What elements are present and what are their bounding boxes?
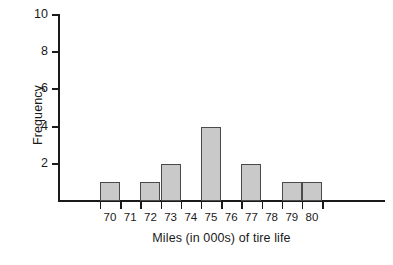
x-tick-mark [221,202,223,209]
x-tick-mark [140,202,142,209]
y-tick-mark [52,126,60,128]
y-tick-mark [52,14,60,16]
bar [100,182,120,201]
x-tick-mark [100,202,102,209]
x-axis-title: Miles (in 000s) of tire life [58,231,385,245]
x-tick-mark [161,202,163,209]
bar [282,182,302,201]
y-tick-label: 8 [26,45,48,57]
bar [161,164,181,201]
y-tick-mark [52,51,60,53]
bar [140,182,160,201]
y-tick-label: 2 [26,157,48,169]
x-tick-mark [282,202,284,209]
y-tick-mark [52,163,60,165]
bar [201,127,221,201]
x-tick-mark [241,202,243,209]
x-tick-mark [120,202,122,209]
x-tick-mark [262,202,264,209]
histogram-chart: Frequency 108642 7071727374757677787980 … [0,0,393,265]
y-tick-label: 10 [26,8,48,20]
y-tick-label: 6 [26,82,48,94]
bar [241,164,261,201]
x-tick-label: 80 [300,211,324,223]
x-tick-mark [201,202,203,209]
x-tick-mark [322,202,324,209]
bar [302,182,322,201]
y-axis-line [58,14,60,202]
y-tick-label: 4 [26,120,48,132]
y-tick-mark [52,88,60,90]
x-tick-mark [302,202,304,209]
x-tick-mark [181,202,183,209]
